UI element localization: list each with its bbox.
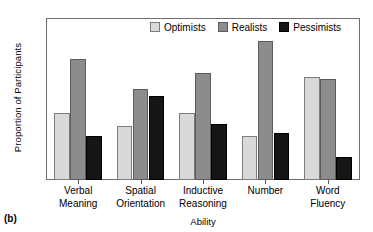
bar-optimists-verbal-meaning[interactable]	[54, 113, 70, 180]
x-axis-tick-mark	[141, 180, 142, 184]
bar-group	[109, 19, 171, 180]
bar-optimists-inductive-reasoning[interactable]	[179, 113, 195, 180]
bar-realists-number[interactable]	[258, 41, 274, 180]
bar-chart-figure: Proportion of Participants 0102030405060…	[0, 0, 373, 232]
legend-item-pessimists[interactable]: Pessimists	[279, 22, 341, 33]
y-axis-tick-group: 010203040506070	[0, 0, 46, 200]
x-axis-tick-label-line: Spatial	[109, 185, 171, 198]
x-axis-tick-label-line: Word	[297, 185, 359, 198]
legend-swatch-optimists	[150, 22, 160, 32]
bar-optimists-word-fluency[interactable]	[304, 77, 320, 181]
bar-pessimists-number[interactable]	[274, 133, 290, 180]
bar-realists-inductive-reasoning[interactable]	[195, 73, 211, 180]
bar-group	[172, 19, 234, 180]
x-axis-tick-label: Number	[234, 185, 296, 198]
x-axis-tick-label: InductiveReasoning	[172, 185, 234, 210]
legend-item-optimists[interactable]: Optimists	[150, 22, 206, 33]
x-axis-tick-label-line: Orientation	[109, 198, 171, 211]
x-axis-label-group: VerbalMeaningSpatialOrientationInductive…	[47, 185, 359, 219]
legend-label-pessimists: Pessimists	[293, 22, 341, 33]
bar-optimists-spatial-orientation[interactable]	[117, 126, 133, 180]
bar-pessimists-spatial-orientation[interactable]	[149, 96, 165, 180]
x-axis-tick-label-line: Verbal	[47, 185, 109, 198]
legend-label-realists: Realists	[232, 22, 268, 33]
panel-label: (b)	[4, 213, 17, 224]
x-axis-tick-mark	[78, 180, 79, 184]
legend-item-realists[interactable]: Realists	[218, 22, 268, 33]
x-axis-tick-mark	[265, 180, 266, 184]
x-axis-tick-mark	[328, 180, 329, 184]
x-axis-tick-label-line: Inductive	[172, 185, 234, 198]
x-axis-tick-label-line: Number	[234, 185, 296, 198]
x-axis-tick-label-line: Reasoning	[172, 198, 234, 211]
x-axis-tick-mark	[203, 180, 204, 184]
x-axis-tick-label: SpatialOrientation	[109, 185, 171, 210]
bar-group	[297, 19, 359, 180]
legend-swatch-realists	[218, 22, 228, 32]
bar-realists-word-fluency[interactable]	[320, 79, 336, 180]
bar-pessimists-inductive-reasoning[interactable]	[211, 124, 227, 180]
bars-layer	[47, 19, 359, 180]
bar-optimists-number[interactable]	[242, 136, 258, 180]
bar-group	[47, 19, 109, 180]
bar-group	[234, 19, 296, 180]
x-axis-tick-label: WordFluency	[297, 185, 359, 210]
legend-swatch-pessimists	[279, 22, 289, 32]
chart-legend: OptimistsRealistsPessimists	[150, 19, 341, 35]
x-axis-title: Ability	[47, 216, 359, 227]
bar-pessimists-verbal-meaning[interactable]	[86, 136, 102, 180]
x-axis-tick-label: VerbalMeaning	[47, 185, 109, 210]
bar-realists-verbal-meaning[interactable]	[70, 59, 86, 180]
x-axis-tick-label-line: Meaning	[47, 198, 109, 211]
legend-label-optimists: Optimists	[164, 22, 206, 33]
bar-realists-spatial-orientation[interactable]	[133, 89, 149, 180]
bar-pessimists-word-fluency[interactable]	[336, 157, 352, 180]
x-axis-tick-label-line: Fluency	[297, 198, 359, 211]
